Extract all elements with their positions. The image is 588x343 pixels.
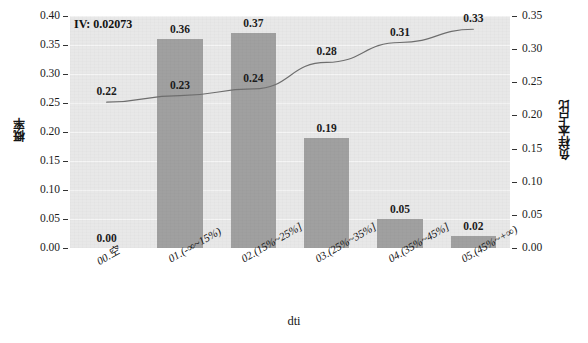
y-axis-right-tick-mark [512,182,517,183]
line-value-label: 0.23 [150,79,210,91]
line-value-label: 0.24 [223,72,283,84]
bar-value-label: 0.00 [77,232,137,244]
y-axis-left-tick-label: 0.30 [28,67,60,79]
line-value-label: 0.28 [297,45,357,57]
y-axis-left-tick-label: 0.05 [28,212,60,224]
y-axis-right-tick-label: 0.35 [522,9,542,21]
x-axis-title: dti [0,314,588,329]
line-series [70,16,510,248]
bar-value-label: 0.19 [297,122,357,134]
y-axis-left-tick-mark [63,190,68,191]
y-axis-left-tick-label: 0.35 [28,38,60,50]
y-axis-right-tick-mark [512,49,517,50]
y-axis-right-tick-label: 0.10 [522,175,542,187]
bar-value-label: 0.36 [150,23,210,35]
y-axis-right-tick-label: 0.05 [522,208,542,220]
y-axis-right-tick-mark [512,16,517,17]
y-axis-left-tick-label: 0.25 [28,96,60,108]
y-axis-right-tick-mark [512,82,517,83]
bar-value-label: 0.37 [223,17,283,29]
plot-area: IV: 0.02073 0.220.230.240.280.310.33 0.0… [70,16,510,248]
y-axis-right-tick-label: 0.00 [522,241,542,253]
y-axis-left-tick-mark [63,103,68,104]
chart-figure: 概率 负样本占比 0.400.350.300.250.200.150.100.0… [0,0,588,343]
y-axis-left-tick-mark [63,248,68,249]
y-axis-right-tick-label: 0.20 [522,108,542,120]
y-axis-right-tick-mark [512,215,517,216]
bar-value-label: 0.02 [443,220,503,232]
y-axis-left-tick-label: 0.40 [28,9,60,21]
y-axis-right-tick-label: 0.30 [522,42,542,54]
line-value-label: 0.33 [443,12,503,24]
y-axis-left-tick-mark [63,132,68,133]
line-value-label: 0.31 [370,26,430,38]
bar-value-label: 0.05 [370,203,430,215]
line-path [107,29,474,102]
y-axis-left-tick-label: 0.20 [28,125,60,137]
y-axis-left-tick-mark [63,219,68,220]
y-axis-right-tick-mark [512,248,517,249]
line-value-label: 0.22 [77,85,137,97]
y-axis-right-tick-label: 0.15 [522,142,542,154]
y-axis-left-tick-mark [63,16,68,17]
y-axis-right-title: 负样本占比 [556,100,573,160]
y-axis-left-tick-mark [63,74,68,75]
gridline [70,248,510,249]
y-axis-right-tick-label: 0.25 [522,75,542,87]
y-axis-left-tick-label: 0.00 [28,241,60,253]
y-axis-right-tick-mark [512,115,517,116]
y-axis-right-tick-mark [512,149,517,150]
y-axis-left-tick-mark [63,161,68,162]
y-axis-left-tick-mark [63,45,68,46]
y-axis-left-tick-label: 0.15 [28,154,60,166]
y-axis-left-tick-label: 0.10 [28,183,60,195]
